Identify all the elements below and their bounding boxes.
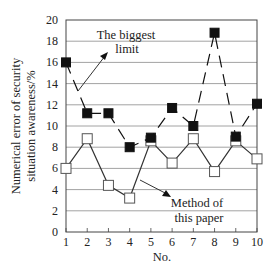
y-tick-label: 6 — [52, 161, 58, 175]
filled-square-marker-icon — [231, 132, 240, 141]
series-the-biggest-limit — [62, 28, 262, 151]
x-axis-label: No. — [153, 250, 171, 264]
y-tick-label: 0 — [52, 225, 58, 239]
annotation-biggest-limit-line1: The biggest — [97, 28, 156, 42]
x-tick-label: 3 — [105, 235, 111, 249]
x-tick-label: 6 — [169, 235, 175, 249]
arrowhead-biggest-limit-icon — [100, 52, 108, 60]
open-square-marker-icon — [210, 167, 220, 177]
open-square-marker-icon — [167, 158, 177, 168]
x-tick-label: 1 — [63, 235, 69, 249]
filled-square-marker-icon — [62, 58, 71, 67]
x-tick-label: 10 — [251, 235, 263, 249]
annotations: The biggest limit Method of this paper — [78, 28, 224, 225]
y-tick-label: 16 — [46, 55, 58, 69]
series-line — [66, 33, 257, 147]
filled-square-marker-icon — [189, 122, 198, 131]
x-tick-label: 4 — [127, 235, 133, 249]
x-tick-label: 8 — [212, 235, 218, 249]
open-square-marker-icon — [252, 154, 262, 164]
x-tick-label: 2 — [84, 235, 90, 249]
data-series — [61, 28, 262, 203]
arrow-biggest-limit — [78, 56, 105, 91]
y-tick-label: 12 — [46, 98, 58, 112]
open-square-marker-icon — [188, 134, 198, 144]
open-square-marker-icon — [125, 193, 135, 203]
y-tick-label: 2 — [52, 204, 58, 218]
y-axis-label: Numerical error of security situation aw… — [9, 57, 38, 194]
x-tick-label: 7 — [190, 235, 196, 249]
annotation-method-line1: Method of — [171, 196, 224, 210]
filled-square-marker-icon — [125, 143, 134, 152]
gridlines — [66, 41, 257, 211]
x-tick-label: 9 — [233, 235, 239, 249]
y-axis-ticks: 02468101214161820 — [46, 13, 58, 239]
open-square-marker-icon — [61, 163, 71, 173]
y-tick-label: 18 — [46, 34, 58, 48]
filled-square-marker-icon — [104, 109, 113, 118]
filled-square-marker-icon — [83, 109, 92, 118]
y-axis-label-line1: Numerical error of security — [9, 57, 23, 194]
x-axis-ticks: 12345678910 — [63, 228, 263, 249]
arrow-method — [140, 180, 167, 194]
filled-square-marker-icon — [210, 28, 219, 37]
open-square-marker-icon — [103, 180, 113, 190]
arrowhead-method-icon — [162, 190, 171, 197]
y-tick-label: 20 — [46, 13, 58, 27]
filled-square-marker-icon — [146, 133, 155, 142]
x-tick-label: 5 — [148, 235, 154, 249]
open-square-marker-icon — [82, 134, 92, 144]
line-chart: 02468101214161820 12345678910 The bigges… — [0, 0, 278, 276]
y-tick-label: 8 — [52, 140, 58, 154]
filled-square-marker-icon — [253, 99, 262, 108]
y-axis-label-line2: situation awareness/% — [24, 70, 38, 181]
filled-square-marker-icon — [168, 103, 177, 112]
annotation-biggest-limit-line2: limit — [115, 42, 139, 56]
annotation-method-line2: this paper — [175, 211, 225, 225]
y-tick-label: 10 — [46, 119, 58, 133]
y-tick-label: 14 — [46, 77, 58, 91]
y-tick-label: 4 — [52, 183, 58, 197]
